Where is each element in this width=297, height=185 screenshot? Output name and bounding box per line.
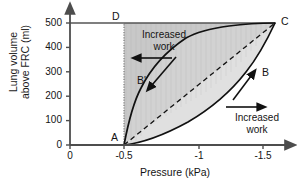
increased-work-lower-annotation: Increased work [222,112,292,135]
increased-work-lower-line1: Increased [235,112,279,123]
y-axis-title-line1: Lung volume [7,10,19,114]
increased-work-lower-line2: work [246,124,267,135]
x-tick-minus-1: -1 [187,150,211,161]
point-label-C: C [281,16,289,27]
point-label-A: A [111,132,118,143]
y-tick-500: 500 [36,17,62,28]
y-tick-100: 100 [36,114,62,125]
y-axis-title-line2: above FRC (ml) [19,10,31,114]
x-tick-0: 0 [58,150,82,161]
y-tick-0: 0 [36,139,62,150]
increased-work-upper-line2: work [153,41,174,52]
x-axis-title: Pressure (kPa) [140,167,210,178]
point-label-B-prime: B' [137,75,146,86]
x-tick-minus-0-5: -0.5 [108,150,140,161]
y-axis-title: Lung volume above FRC (ml) [7,10,31,114]
x-tick-minus-1-5: -1.5 [247,150,279,161]
y-tick-300: 300 [36,66,62,77]
point-label-D: D [112,11,120,22]
increased-work-upper-annotation: Increased work [129,29,199,52]
lung-compliance-chart: 500 400 300 200 100 0 0 -0.5 -1 -1.5 Pre… [0,0,297,185]
increased-work-upper-line1: Increased [142,29,186,40]
y-tick-400: 400 [36,41,62,52]
y-tick-200: 200 [36,90,62,101]
point-label-B: B [262,67,269,78]
